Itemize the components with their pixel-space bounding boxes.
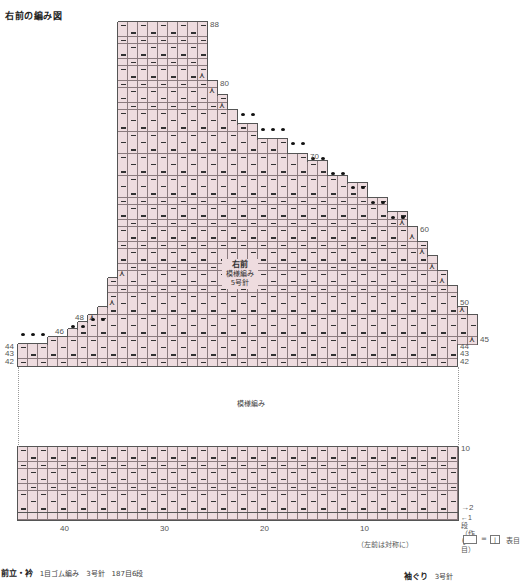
purl-symbol (201, 245, 206, 246)
decrease-symbol: ⋏ (219, 102, 225, 110)
purl-symbol (451, 310, 456, 311)
decrease-symbol: ⋏ (409, 233, 415, 241)
purl-symbol (221, 157, 226, 158)
purl-symbol (271, 164, 276, 165)
purl-symbol (141, 201, 146, 202)
purl-symbol (221, 318, 226, 319)
purl-symbol (411, 296, 416, 297)
purl-symbol (371, 237, 376, 238)
piece-label: 右前 模様編み 5号針 (222, 259, 258, 289)
purl-symbol (301, 318, 306, 319)
purl-symbol (91, 325, 96, 326)
purl-symbol (251, 325, 256, 326)
purl-symbol (191, 193, 196, 194)
purl-symbol (371, 296, 376, 297)
purl-symbol (451, 325, 456, 326)
purl-symbol (131, 193, 136, 194)
purl-symbol (161, 69, 166, 70)
purl-symbol (161, 318, 166, 319)
purl-symbol (131, 32, 136, 33)
purl-symbol (341, 362, 346, 363)
purl-symbol (321, 230, 326, 231)
purl-symbol (411, 340, 416, 341)
purl-symbol (71, 340, 76, 341)
purl-symbol (231, 354, 236, 355)
purl-symbol (221, 332, 226, 333)
purl-symbol (151, 179, 156, 180)
purl-symbol (361, 274, 366, 275)
purl-symbol (251, 237, 256, 238)
purl-symbol (331, 296, 336, 297)
purl-symbol (221, 98, 226, 99)
purl-symbol (401, 289, 406, 290)
purl-symbol (171, 164, 176, 165)
purl-symbol (291, 354, 296, 355)
purl-symbol (281, 303, 286, 304)
purl-symbol (231, 179, 236, 180)
purl-symbol (161, 274, 166, 275)
purl-symbol (371, 354, 376, 355)
purl-symbol (431, 281, 436, 282)
purl-symbol (341, 201, 346, 202)
purl-symbol (381, 230, 386, 231)
legend-empty-cell (463, 535, 477, 544)
footer-front-band-detail: 1目ゴム編み 3号針 187目6段 (40, 570, 144, 578)
purl-symbol (311, 164, 316, 165)
purl-symbol (231, 252, 236, 253)
purl-symbol (241, 127, 246, 128)
purl-symbol (131, 91, 136, 92)
purl-symbol (281, 186, 286, 187)
bind-off-dot (271, 128, 275, 131)
chart-edge-top (328, 175, 348, 176)
purl-symbol (281, 274, 286, 275)
purl-symbol (111, 354, 116, 355)
purl-symbol (161, 215, 166, 216)
purl-symbol (271, 237, 276, 238)
purl-symbol (171, 91, 176, 92)
purl-symbol (251, 252, 256, 253)
legend-knit-symbol: | (490, 535, 500, 544)
purl-symbol (211, 340, 216, 341)
purl-symbol (121, 318, 126, 319)
purl-symbol (121, 98, 126, 99)
purl-symbol (151, 354, 156, 355)
purl-symbol (241, 347, 246, 348)
purl-symbol (81, 347, 86, 348)
row-number-10: 10 (461, 445, 470, 453)
purl-symbol (391, 340, 396, 341)
purl-symbol (311, 208, 316, 209)
bind-off-dot (291, 142, 295, 145)
row-number-right: 80 (220, 80, 229, 88)
purl-symbol (361, 230, 366, 231)
purl-symbol (141, 142, 146, 143)
purl-symbol (61, 362, 66, 363)
purl-symbol (141, 69, 146, 70)
bind-off-dot (281, 128, 285, 131)
purl-symbol (181, 230, 186, 231)
purl-symbol (421, 245, 426, 246)
purl-symbol (161, 230, 166, 231)
gap-line-right (458, 367, 459, 447)
purl-symbol (351, 310, 356, 311)
purl-symbol (401, 362, 406, 363)
purl-symbol (121, 245, 126, 246)
purl-symbol (251, 340, 256, 341)
purl-symbol (161, 186, 166, 187)
purl-symbol (211, 296, 216, 297)
purl-symbol (141, 274, 146, 275)
purl-symbol (301, 347, 306, 348)
purl-symbol (201, 347, 206, 348)
purl-symbol (311, 193, 316, 194)
purl-symbol (321, 259, 326, 260)
purl-symbol (311, 296, 316, 297)
purl-symbol (161, 98, 166, 99)
purl-symbol (291, 267, 296, 268)
purl-symbol (131, 47, 136, 48)
purl-symbol (281, 171, 286, 172)
purl-symbol (101, 332, 106, 333)
purl-symbol (181, 347, 186, 348)
purl-symbol (291, 296, 296, 297)
decrease-symbol: ⋏ (199, 72, 205, 80)
purl-symbol (331, 223, 336, 224)
purl-symbol (441, 274, 446, 275)
